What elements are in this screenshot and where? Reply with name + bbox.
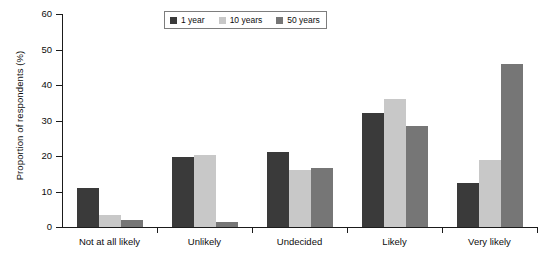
y-axis-tick (56, 14, 62, 15)
bar (289, 170, 311, 227)
y-axis-tick-label: 0 (26, 222, 52, 232)
bar-group (457, 14, 523, 227)
x-axis-category-label: Very likely (442, 236, 537, 247)
legend-swatch-icon (219, 17, 226, 24)
x-axis-category-label: Not at all likely (62, 236, 157, 247)
plot-area: 0102030405060Not at all likelyUnlikelyUn… (62, 14, 537, 227)
bar (406, 126, 428, 227)
x-axis-tick (442, 227, 443, 233)
bar-chart-figure: Proportion of respondents (%) 0102030405… (0, 0, 544, 254)
bar-group (267, 14, 333, 227)
y-axis-tick (56, 156, 62, 157)
bar (479, 160, 501, 227)
y-axis-tick (56, 50, 62, 51)
y-axis-tick-label: 50 (26, 45, 52, 55)
bar-group (362, 14, 428, 227)
legend-label: 10 years (230, 16, 263, 25)
x-axis-category-label: Unlikely (157, 236, 252, 247)
bar (457, 183, 479, 227)
bar (216, 222, 238, 227)
bar (501, 64, 523, 227)
bar (267, 152, 289, 227)
bar (362, 113, 384, 227)
bar (194, 155, 216, 227)
bar (121, 220, 143, 227)
y-axis-tick-label: 40 (26, 80, 52, 90)
bar-group (77, 14, 143, 227)
y-axis-tick-label: 20 (26, 151, 52, 161)
x-axis-tick (157, 227, 158, 233)
y-axis-tick (56, 227, 62, 228)
bar (384, 99, 406, 227)
legend-entry: 10 years (219, 16, 263, 25)
y-axis-tick-label: 10 (26, 187, 52, 197)
legend-swatch-icon (276, 17, 283, 24)
x-axis-tick (537, 227, 538, 233)
bar-group (172, 14, 238, 227)
bar (99, 215, 121, 227)
y-axis-tick-label: 30 (26, 116, 52, 126)
x-axis-tick (252, 227, 253, 233)
legend-entry: 50 years (276, 16, 320, 25)
y-axis-tick (56, 192, 62, 193)
legend-swatch-icon (170, 17, 177, 24)
bar (77, 188, 99, 227)
legend-label: 50 years (287, 16, 320, 25)
legend-entry: 1 year (170, 16, 205, 25)
y-axis-title: Proportion of respondents (%) (14, 11, 25, 221)
x-axis-category-label: Undecided (252, 236, 347, 247)
y-axis-line (62, 14, 63, 227)
legend-label: 1 year (181, 16, 205, 25)
bar (311, 168, 333, 227)
y-axis-tick (56, 85, 62, 86)
bar (172, 157, 194, 227)
x-axis-category-label: Likely (347, 236, 442, 247)
x-axis-line (62, 227, 537, 228)
chart-legend: 1 year10 years50 years (164, 11, 327, 29)
y-axis-tick (56, 121, 62, 122)
x-axis-tick (347, 227, 348, 233)
y-axis-tick-label: 60 (26, 9, 52, 19)
